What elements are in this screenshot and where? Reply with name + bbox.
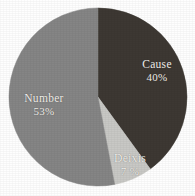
pie-slices-group	[9, 8, 187, 186]
pie-chart-svg	[0, 0, 195, 196]
pie-chart-figure: Cause 40% Number 53% Deixis 7 %	[0, 0, 195, 196]
